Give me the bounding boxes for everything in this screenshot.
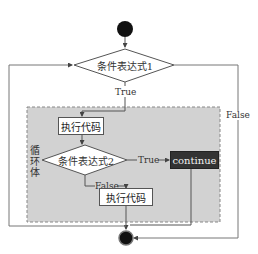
cond2-true-label: True (138, 156, 159, 165)
exec1-box: 执行代码 (58, 117, 104, 135)
cond1-false-label: False (226, 111, 250, 120)
condition1-label: 条件表达式1 (84, 58, 166, 72)
cond1-true-label: True (115, 88, 136, 97)
condition2-label: 条件表达式2 (50, 153, 122, 167)
loop-body-label: 循环体 (29, 145, 40, 178)
end-node (119, 231, 133, 245)
continue-box: continue (170, 151, 219, 169)
flowchart-canvas (0, 0, 258, 254)
start-node (117, 21, 133, 37)
exec2-box: 执行代码 (99, 188, 153, 206)
